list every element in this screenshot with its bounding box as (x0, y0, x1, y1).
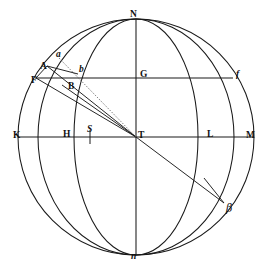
label-K: K (13, 131, 20, 141)
label-H: H (63, 130, 70, 140)
figure-root: N n K M T H L S G F f A B a b β (0, 0, 270, 274)
label-A: A (40, 62, 47, 72)
label-a: a (56, 50, 61, 60)
label-F: F (31, 76, 37, 86)
label-T: T (138, 131, 144, 141)
label-L: L (207, 130, 213, 140)
ray-center-to-f (36, 78, 136, 137)
label-f: f (236, 70, 239, 80)
label-n: n (131, 252, 136, 262)
ray-center-to-b (62, 85, 136, 137)
label-b: b (79, 65, 84, 75)
label-S: S (87, 125, 92, 135)
label-G: G (140, 70, 147, 80)
label-B: B (68, 82, 74, 92)
label-N: N (130, 10, 137, 20)
ray-center-to-beta (136, 137, 224, 203)
label-M: M (246, 131, 255, 141)
ray-center-to-a-small-dotted (58, 57, 136, 137)
diagram-canvas (0, 0, 270, 274)
label-beta: β (226, 203, 232, 214)
